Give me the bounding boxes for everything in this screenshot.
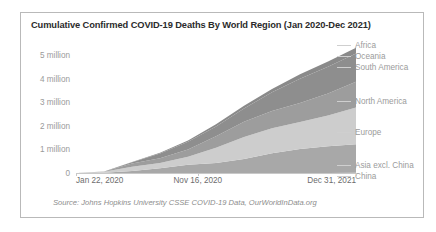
- x-tick-label: Nov 16, 2020: [173, 176, 222, 185]
- legend-leader-line: [337, 132, 351, 133]
- y-tick-label: 3 million: [40, 98, 70, 107]
- legend-leader-line: [337, 56, 351, 57]
- legend-label: North America: [355, 96, 407, 107]
- legend-leader-line: [337, 176, 351, 177]
- legend-leader-line: [337, 165, 351, 166]
- legend-leader-line: [337, 45, 351, 46]
- chart-legend: AfricaOceaniaSouth AmericaNorth AmericaE…: [337, 35, 425, 180]
- legend-leader-line: [337, 67, 351, 68]
- source-note: Source: Johns Hopkins University CSSE CO…: [53, 198, 317, 207]
- legend-label: Asia excl. China: [355, 160, 414, 171]
- legend-label: Oceania: [355, 51, 386, 62]
- chart-figure-frame: Cumulative Confirmed COVID-19 Deaths By …: [20, 12, 424, 218]
- y-tick-label: 1 million: [40, 145, 70, 154]
- y-tick-label: 2 million: [40, 121, 70, 130]
- y-tick-label: 4 million: [40, 74, 70, 83]
- y-axis: 01 million2 million3 million4 million5 m…: [21, 41, 73, 173]
- x-tick-mark: [356, 173, 357, 176]
- legend-label: Europe: [355, 127, 381, 138]
- x-tick-mark: [198, 173, 199, 176]
- x-axis-line: [76, 173, 356, 174]
- plot-area: [76, 41, 356, 173]
- x-tick-label: Jan 22, 2020: [76, 176, 123, 185]
- x-tick-mark: [76, 173, 77, 176]
- y-tick-label: 5 million: [40, 51, 70, 60]
- chart-title: Cumulative Confirmed COVID-19 Deaths By …: [31, 20, 371, 30]
- legend-label: China: [355, 171, 376, 182]
- legend-leader-line: [337, 101, 351, 102]
- legend-label: Africa: [355, 40, 376, 51]
- legend-label: South America: [355, 62, 408, 73]
- stacked-area-plot: [76, 41, 356, 173]
